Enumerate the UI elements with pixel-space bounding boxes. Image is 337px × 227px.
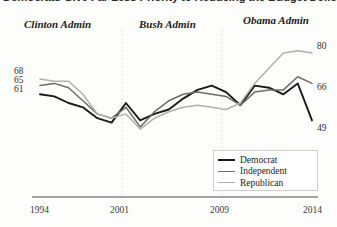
- era-divider-lines: [122, 30, 222, 197]
- legend-swatch-republican: [218, 182, 235, 183]
- plot-area: [0, 0, 337, 227]
- legend-swatch-democrat: [218, 159, 235, 161]
- endpoint-label-left-democrat: 61: [14, 84, 24, 94]
- x-tick-label: 2014: [303, 205, 322, 215]
- x-tick-label: 2009: [210, 205, 229, 215]
- endpoint-label-right-independent: 66: [317, 82, 327, 92]
- series-lines: [40, 51, 312, 129]
- legend-item-democrat: Democrat: [218, 154, 313, 166]
- legend-label-democrat: Democrat: [240, 155, 277, 165]
- legend-swatch-independent: [218, 171, 235, 172]
- legend-label-independent: Independent: [240, 166, 287, 176]
- legend: Democrat Independent Republican: [213, 150, 318, 191]
- legend-label-republican: Republican: [240, 178, 283, 188]
- series-line-independent: [40, 77, 312, 127]
- chart-figure: Democrats Give Far Less Priority to Redu…: [0, 0, 337, 227]
- endpoint-label-right-democrat: 49: [317, 123, 327, 133]
- x-tick-label: 1994: [30, 205, 49, 215]
- x-tick-label: 2001: [110, 205, 129, 215]
- legend-item-republican: Republican: [218, 177, 313, 189]
- legend-item-independent: Independent: [218, 166, 313, 178]
- endpoint-label-right-republican: 80: [317, 41, 327, 51]
